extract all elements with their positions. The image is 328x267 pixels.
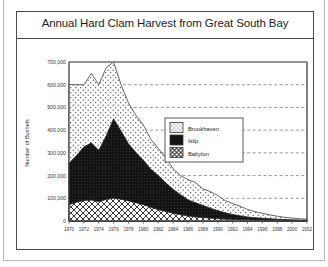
x-tick-label: 1992: [228, 227, 239, 232]
y-tick-label: 600,000: [47, 82, 66, 88]
x-tick-label: 1994: [242, 227, 253, 232]
legend-swatch-brookhaven: [170, 123, 183, 133]
y-axis-title: Number of Bushels: [24, 119, 30, 167]
x-axis-tick-labels: 1970197219741976197819801982198419861988…: [64, 227, 313, 232]
y-axis-tick-labels: 0100,000200,000300,000400,000500,000600,…: [47, 59, 66, 224]
x-tick-label: 1974: [94, 227, 105, 232]
legend-label-babylon: Babylon: [188, 151, 209, 157]
stacked-area-chart: 0100,000200,000300,000400,000500,000600,…: [17, 39, 315, 250]
legend-swatch-babylon: [170, 148, 183, 158]
x-tick-label: 2000: [287, 227, 298, 232]
legend-label-brookhaven: Brookhaven: [188, 126, 219, 132]
y-tick-label: 200,000: [47, 173, 66, 179]
x-tick-label: 1998: [272, 227, 283, 232]
y-tick-label: 100,000: [47, 195, 66, 201]
x-tick-label: 1990: [213, 227, 224, 232]
chart-canvas: 0100,000200,000300,000400,000500,000600,…: [17, 39, 315, 250]
chart-title: Annual Hard Clam Harvest from Great Sout…: [17, 17, 313, 29]
y-tick-label: 400,000: [47, 127, 66, 133]
x-tick-label: 2002: [302, 227, 313, 232]
svg-text:Number of Bushels: Number of Bushels: [24, 119, 30, 167]
x-tick-label: 1984: [168, 227, 179, 232]
x-tick-label: 1982: [153, 227, 164, 232]
legend-label-islip: Islip: [188, 138, 198, 144]
figure-root: Annual Hard Clam Harvest from Great Sout…: [0, 0, 328, 267]
y-tick-label: 300,000: [47, 150, 66, 156]
chart-figure: Annual Hard Clam Harvest from Great Sout…: [16, 11, 314, 250]
legend-swatch-islip: [170, 135, 183, 145]
x-tick-label: 1996: [257, 227, 268, 232]
x-tick-label: 1978: [123, 227, 134, 232]
y-tick-label: 700,000: [47, 59, 66, 65]
x-tick-label: 1972: [79, 227, 90, 232]
x-tick-label: 1970: [64, 227, 75, 232]
x-tick-label: 1976: [109, 227, 120, 232]
x-tick-label: 1986: [183, 227, 194, 232]
y-tick-label: 0: [63, 218, 66, 224]
x-tick-label: 1988: [198, 227, 209, 232]
x-tick-label: 1980: [138, 227, 149, 232]
y-tick-label: 500,000: [47, 104, 66, 110]
chart-legend: Brookhaven Islip Babylon: [165, 118, 243, 162]
